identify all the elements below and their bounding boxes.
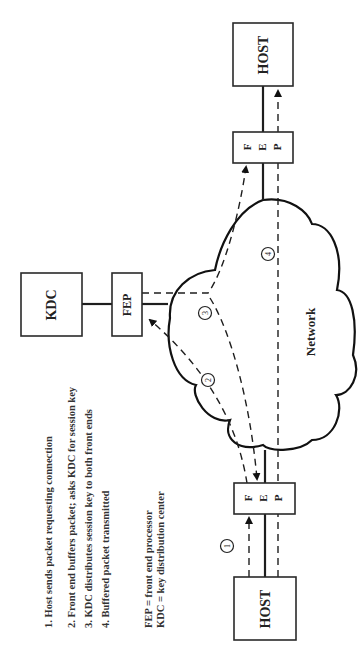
kdc-label: KDC: [44, 289, 59, 320]
legend-abbr-kdc: KDC = key distribution center: [155, 491, 166, 628]
kdc-box: KDC: [21, 273, 82, 336]
fep-top: F E P: [233, 132, 293, 163]
fep-top-p: P: [271, 143, 283, 150]
svg-text:2: 2: [204, 378, 213, 382]
fep-top-f: F: [241, 143, 253, 150]
fep-bottom: F E P: [234, 483, 295, 514]
host-bottom-label: HOST: [258, 589, 273, 629]
fep-bottom-p: P: [272, 494, 284, 501]
legend-step-1: 1. Host sends packet requesting connecti…: [43, 436, 54, 628]
fep-top-e: E: [256, 143, 268, 150]
kdc-fep-label: FEP: [120, 294, 134, 317]
legend-step-4: 4. Buffered packet transmitted: [100, 490, 111, 628]
legend: 1. Host sends packet requesting connecti…: [43, 386, 166, 628]
svg-text:4: 4: [264, 252, 273, 256]
legend-abbr-fep: FEP = front end processor: [143, 510, 154, 628]
key-distribution-diagram: HOST F E P F E P HOST KDC FEP Network 1 …: [0, 0, 363, 667]
fep-bottom-e: E: [257, 494, 269, 501]
svg-text:1: 1: [223, 544, 232, 548]
host-top-label: HOST: [256, 35, 271, 75]
step-marker-4: 4: [262, 248, 275, 261]
legend-step-2: 2. Front end buffers packet; asks KDC fo…: [66, 386, 77, 628]
step-marker-1: 1: [221, 540, 234, 553]
kdc-fep-box: FEP: [112, 273, 142, 336]
host-bottom: HOST: [234, 577, 296, 640]
legend-step-3: 3. KDC distributes session key to both f…: [83, 409, 94, 628]
step-marker-2: 2: [202, 374, 215, 387]
step-marker-3: 3: [199, 307, 212, 320]
network-cloud: [169, 199, 356, 449]
fep-bottom-f: F: [242, 494, 254, 501]
svg-text:3: 3: [201, 311, 210, 315]
network-label: Network: [303, 307, 318, 356]
host-top: HOST: [233, 23, 293, 86]
